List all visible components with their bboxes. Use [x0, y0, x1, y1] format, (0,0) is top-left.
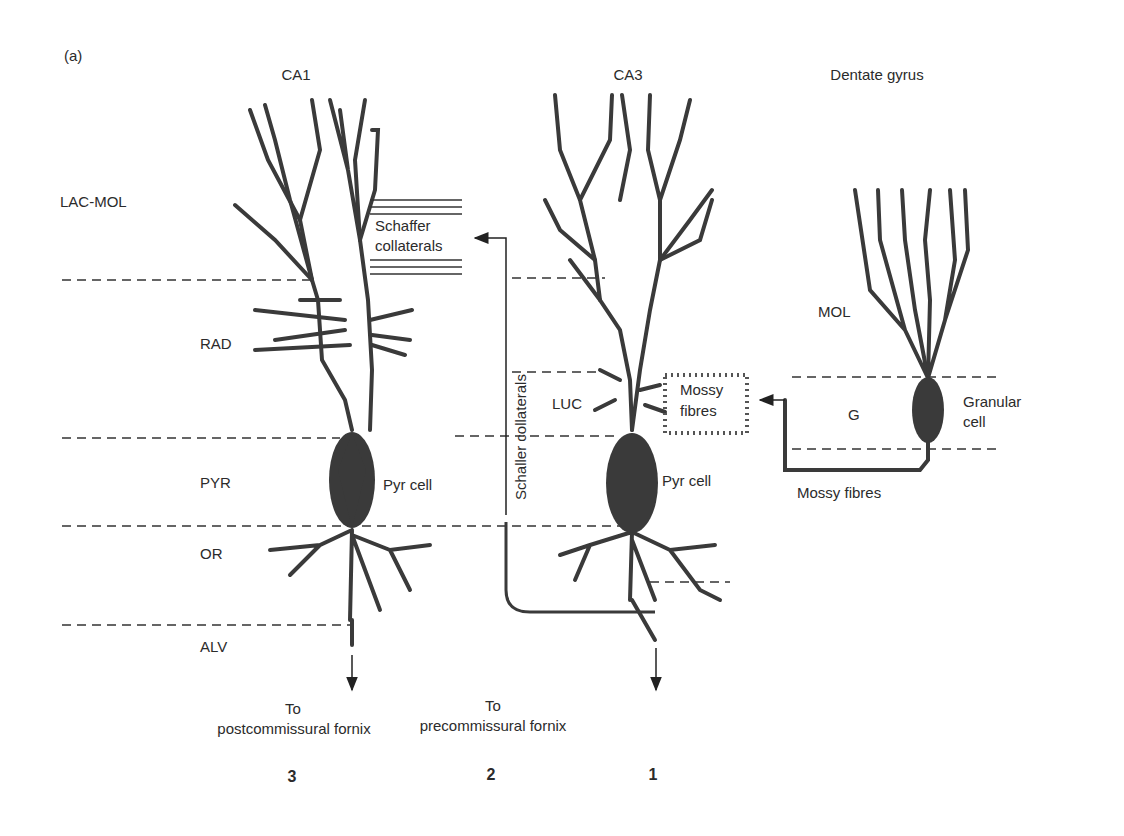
layer-label-lac-mol: LAC-MOL — [60, 193, 127, 210]
granular-cell-label-1: Granular — [963, 393, 1021, 410]
region-title-ca3: CA3 — [613, 66, 642, 83]
ca1-output-label-1: To — [285, 700, 301, 717]
ca1-output-label-2: postcommissural fornix — [217, 720, 370, 737]
region-title-dentate: Dentate gyrus — [830, 66, 923, 83]
mossy-fibres-path-label: Mossy fibres — [797, 484, 881, 501]
region-number-ca1: 3 — [288, 768, 297, 786]
region-number-ca3: 2 — [487, 766, 496, 784]
granule-soma — [912, 377, 944, 443]
layer-label-rad: RAD — [200, 335, 232, 352]
ca3-neuron — [545, 95, 720, 640]
ca3-output-label-2: precommissural fornix — [420, 717, 567, 734]
layer-label-luc: LUC — [552, 395, 582, 412]
panel-label: (a) — [64, 47, 82, 64]
ca3-pyr-cell-label: Pyr cell — [662, 472, 711, 489]
ca1-pyr-cell-label: Pyr cell — [383, 476, 432, 493]
ca3-soma — [606, 433, 658, 533]
region-title-ca1: CA1 — [281, 66, 310, 83]
mossy-box-label-2: fibres — [680, 402, 717, 419]
schaffer-arrow — [475, 238, 506, 515]
layer-label-mol: MOL — [818, 303, 851, 320]
ca3-output-label-1: To — [485, 697, 501, 714]
granular-cell-label-2: cell — [963, 413, 986, 430]
mossy-box-label-1: Mossy — [680, 381, 723, 398]
ca1-neuron — [235, 100, 430, 645]
layer-label-or: OR — [200, 545, 223, 562]
hippocampus-diagram-art — [0, 0, 1124, 836]
schaffer-box-label-1: Schaffer — [375, 217, 431, 234]
layer-label-pyr: PYR — [200, 474, 231, 491]
layer-label-g: G — [848, 406, 860, 423]
schaffer-box-label-2: collaterals — [375, 237, 443, 254]
schaffer-vertical-label: Schaller collaterals — [512, 374, 529, 500]
layer-boundaries — [62, 278, 1000, 625]
layer-label-alv: ALV — [200, 638, 227, 655]
region-number-dentate: 1 — [649, 766, 658, 784]
